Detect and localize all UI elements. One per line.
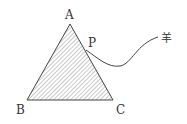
label-b: B [16, 103, 25, 117]
label-p: P [88, 36, 96, 50]
rope-curve [86, 37, 158, 66]
label-c: C [116, 103, 125, 117]
triangle-diagram: A P B C 羊 [0, 0, 187, 124]
label-sheep: 羊 [161, 31, 172, 45]
label-a: A [64, 8, 74, 22]
triangle-abc [27, 24, 113, 100]
